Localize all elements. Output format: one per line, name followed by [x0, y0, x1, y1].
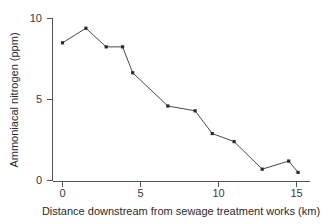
x-tick-label-10: 10	[212, 187, 224, 199]
data-point	[296, 171, 299, 174]
data-series-line	[63, 28, 299, 172]
y-axis-title: Ammoniacal nitrogen (ppm)	[8, 32, 20, 167]
y-tick-label-5: 5	[36, 93, 42, 105]
data-point	[211, 132, 214, 135]
line-chart-plot: 10 5 0 0 5 10 15 Distance downstream fro…	[0, 0, 332, 224]
chart-figure: 10 5 0 0 5 10 15 Distance downstream fro…	[0, 0, 332, 224]
x-axis-title: Distance downstream from sewage treatmen…	[42, 205, 320, 217]
data-point	[166, 104, 169, 107]
x-tick-label-5: 5	[137, 187, 143, 199]
data-point	[194, 109, 197, 112]
x-tick-label-0: 0	[59, 187, 65, 199]
data-point	[261, 168, 264, 171]
x-tick-label-15: 15	[290, 187, 302, 199]
data-point	[131, 71, 134, 74]
data-point	[105, 45, 108, 48]
data-point	[233, 140, 236, 143]
y-tick-label-10: 10	[30, 12, 42, 24]
data-series-markers	[61, 27, 300, 174]
y-tick-label-0: 0	[36, 174, 42, 186]
data-point	[287, 159, 290, 162]
data-point	[61, 41, 64, 44]
data-point	[121, 45, 124, 48]
data-point	[84, 27, 87, 30]
